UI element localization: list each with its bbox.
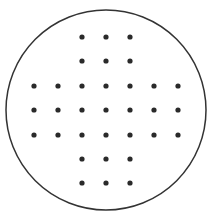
hole-dot	[151, 83, 156, 88]
hole-dot	[127, 156, 132, 161]
hole-dot	[31, 107, 36, 112]
hole-dot	[79, 132, 84, 137]
hole-dot	[103, 107, 108, 112]
hole-dot	[79, 156, 84, 161]
hole-dot	[127, 34, 132, 39]
hole-dot	[79, 34, 84, 39]
hole-dot	[55, 107, 60, 112]
hole-dot	[127, 132, 132, 137]
hole-dot	[175, 83, 180, 88]
hole-dot	[79, 58, 84, 63]
hole-dot	[175, 132, 180, 137]
hole-dot	[79, 107, 84, 112]
hole-dot	[79, 83, 84, 88]
hole-dot	[151, 107, 156, 112]
hole-dot	[55, 83, 60, 88]
peg-solitaire-board	[0, 0, 211, 220]
hole-dot	[103, 156, 108, 161]
hole-dot	[127, 83, 132, 88]
hole-dot	[79, 180, 84, 185]
hole-dot	[151, 132, 156, 137]
hole-dot	[103, 34, 108, 39]
holes-group	[31, 34, 180, 185]
hole-dot	[103, 180, 108, 185]
hole-dot	[103, 83, 108, 88]
hole-dot	[31, 83, 36, 88]
hole-dot	[127, 58, 132, 63]
hole-dot	[103, 132, 108, 137]
hole-dot	[175, 107, 180, 112]
hole-dot	[55, 132, 60, 137]
hole-dot	[127, 180, 132, 185]
hole-dot	[31, 132, 36, 137]
hole-dot	[127, 107, 132, 112]
hole-dot	[103, 58, 108, 63]
